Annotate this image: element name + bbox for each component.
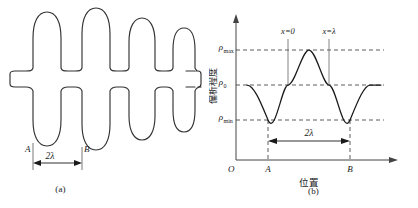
panel-b-chart: x=0 x=λ 2λ ρ max ρ 0 ρ min 偏析程度 O A B: [209, 0, 418, 208]
xtick-label-a: A: [264, 164, 271, 174]
xtick-label-b: B: [347, 164, 353, 174]
panel-a-dendrite: A B 2λ (a): [0, 0, 209, 208]
figure-container: A B 2λ (a): [0, 0, 418, 208]
dendrite-outline-path: [10, 8, 201, 150]
origin-label: O: [228, 164, 235, 174]
dimension-arrow-left-icon: [33, 160, 41, 166]
panel-b-caption: (b): [209, 186, 418, 196]
dimension-arrow-right-icon: [74, 160, 82, 166]
annotation-x-zero: x=0: [280, 26, 296, 36]
ytick-label-rho-0-sub: 0: [224, 83, 227, 89]
segregation-curve-path: [247, 50, 381, 123]
span-arrow-right-icon: [341, 138, 350, 144]
x-axis-arrow-icon: [389, 157, 398, 163]
y-axis-arrow-icon: [233, 14, 239, 23]
panel-a-label-B: B: [84, 144, 90, 154]
ytick-label-rho-max-sub: max: [224, 48, 234, 54]
annotation-x-lambda: x=λ: [321, 26, 336, 36]
annotation-span-2lambda: 2λ: [305, 128, 314, 138]
segregation-chart-drawing: x=0 x=λ 2λ ρ max ρ 0 ρ min 偏析程度 O A B: [209, 0, 418, 208]
y-axis-title: 偏析程度: [209, 68, 218, 104]
panel-a-spacing-label: 2λ: [46, 151, 55, 161]
dendrite-spine-tip-path: [186, 71, 195, 87]
panel-a-label-A: A: [24, 144, 31, 154]
dendrite-drawing: A B 2λ: [0, 0, 209, 208]
ytick-label-rho-min-sub: min: [224, 118, 233, 124]
span-arrow-left-icon: [268, 138, 277, 144]
panel-a-caption: (a): [0, 184, 165, 194]
